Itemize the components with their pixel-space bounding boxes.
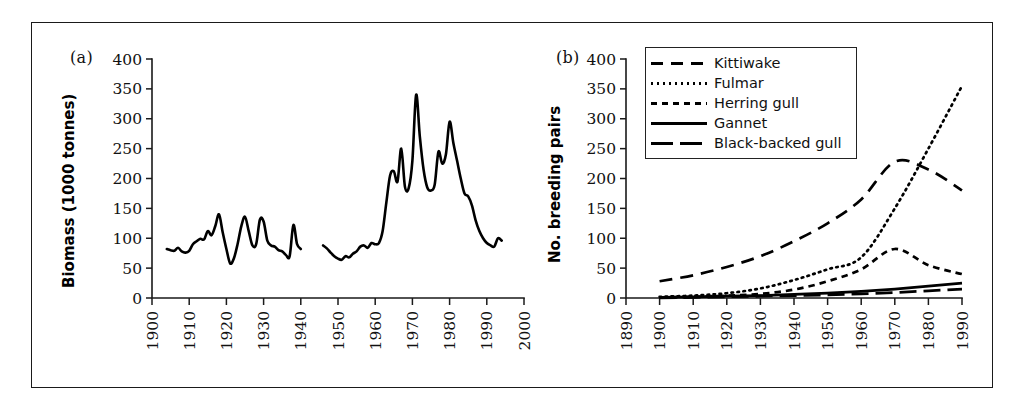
panel-a-x-tick-label: 1940 bbox=[292, 311, 310, 350]
panel-b-x-tick-label: 1920 bbox=[718, 311, 736, 350]
panel-a-axis-lines bbox=[152, 59, 524, 298]
panel-b-y-tick-label: 100 bbox=[586, 230, 616, 248]
panel-a-x-tick-label: 1920 bbox=[218, 311, 236, 350]
legend-swatch-gannet bbox=[651, 116, 707, 130]
panel-b-y-tick-label: 50 bbox=[596, 260, 616, 278]
panel-b-x-tick-label: 1990 bbox=[954, 311, 972, 350]
panel-b-x-tick-label: 1980 bbox=[920, 311, 938, 350]
panel-b-y-tick-label: 300 bbox=[586, 110, 616, 128]
panel-b-x-tick-label: 1950 bbox=[819, 311, 837, 350]
panel-b-y-tick-label: 250 bbox=[586, 140, 616, 158]
panel-b-y-tick-label: 350 bbox=[586, 80, 616, 98]
panel-b-y-tick-label: 150 bbox=[586, 200, 616, 218]
panel-b-x-tick-label: 1930 bbox=[752, 311, 770, 350]
panel-b-legend: KittiwakeFulmarHerring gullGannetBlack-b… bbox=[645, 47, 857, 159]
panel-a-x-tick-label: 1930 bbox=[255, 311, 273, 350]
panel-b-y-tick-label: 0 bbox=[606, 290, 616, 308]
panel-a-x-tick-label: 1900 bbox=[144, 311, 162, 350]
panel-b-x-tick-label: 1970 bbox=[886, 311, 904, 350]
legend-item-fulmar: Fulmar bbox=[651, 73, 849, 93]
legend-swatch-black-backed-gull bbox=[651, 136, 707, 150]
panel-b-x-tick-label: 1910 bbox=[685, 311, 703, 350]
panel-b-y-tick-label: 400 bbox=[586, 51, 616, 69]
panel-a-y-tick-label: 400 bbox=[112, 51, 142, 69]
legend-label-herring-gull: Herring gull bbox=[714, 96, 799, 111]
panel-b-y-tick-label: 200 bbox=[586, 170, 616, 188]
panel-b-x-tick-label: 1960 bbox=[853, 311, 871, 350]
panel-a-x-tick-label: 1980 bbox=[441, 311, 459, 350]
panel-b-x-tick-label: 1900 bbox=[651, 311, 669, 350]
figure-frame: (a) Biomass (1000 tonnes) 05010015020025… bbox=[31, 22, 993, 388]
legend-swatch-fulmar bbox=[651, 76, 707, 90]
panel-a-plot: 0501001502002503003504001900191019201930… bbox=[32, 23, 532, 389]
panel-a-x-tick-label: 1990 bbox=[478, 311, 496, 350]
panel-b-x-tick-label: 1940 bbox=[786, 311, 804, 350]
panel-a-y-tick-label: 300 bbox=[112, 110, 142, 128]
panel-a-y-tick-label: 0 bbox=[132, 290, 142, 308]
panel-a: (a) Biomass (1000 tonnes) 05010015020025… bbox=[32, 23, 532, 389]
panel-a-x-tick-label: 1960 bbox=[367, 311, 385, 350]
legend-label-fulmar: Fulmar bbox=[714, 76, 764, 91]
panel-b-series-kittiwake bbox=[660, 160, 962, 281]
panel-b-x-tick-label: 1890 bbox=[618, 311, 636, 350]
legend-item-black-backed-gull: Black-backed gull bbox=[651, 133, 849, 153]
panel-b: (b) No. breeding pairs 05010015020025030… bbox=[532, 23, 994, 389]
legend-label-black-backed-gull: Black-backed gull bbox=[714, 136, 842, 151]
legend-item-gannet: Gannet bbox=[651, 113, 849, 133]
legend-label-kittiwake: Kittiwake bbox=[714, 56, 780, 71]
panel-a-y-tick-label: 150 bbox=[112, 200, 142, 218]
legend-swatch-kittiwake bbox=[651, 56, 707, 70]
panel-a-x-tick-label: 1970 bbox=[404, 311, 422, 350]
legend-label-gannet: Gannet bbox=[714, 116, 767, 131]
legend-item-herring-gull: Herring gull bbox=[651, 93, 849, 113]
legend-item-kittiwake: Kittiwake bbox=[651, 53, 849, 73]
panel-a-x-tick-label: 1910 bbox=[181, 311, 199, 350]
legend-swatch-herring-gull bbox=[651, 96, 707, 110]
panel-a-y-tick-label: 250 bbox=[112, 140, 142, 158]
panel-a-y-tick-label: 50 bbox=[122, 260, 142, 278]
panel-a-x-tick-label: 1950 bbox=[330, 311, 348, 350]
panel-a-y-tick-label: 350 bbox=[112, 80, 142, 98]
panel-a-biomass-curve-1 bbox=[167, 214, 301, 263]
panel-a-y-tick-label: 100 bbox=[112, 230, 142, 248]
figure-root: (a) Biomass (1000 tonnes) 05010015020025… bbox=[0, 0, 1025, 407]
panel-a-y-tick-label: 200 bbox=[112, 170, 142, 188]
panel-a-biomass-curve-2 bbox=[323, 95, 502, 260]
panel-a-x-tick-label: 2000 bbox=[516, 311, 534, 350]
